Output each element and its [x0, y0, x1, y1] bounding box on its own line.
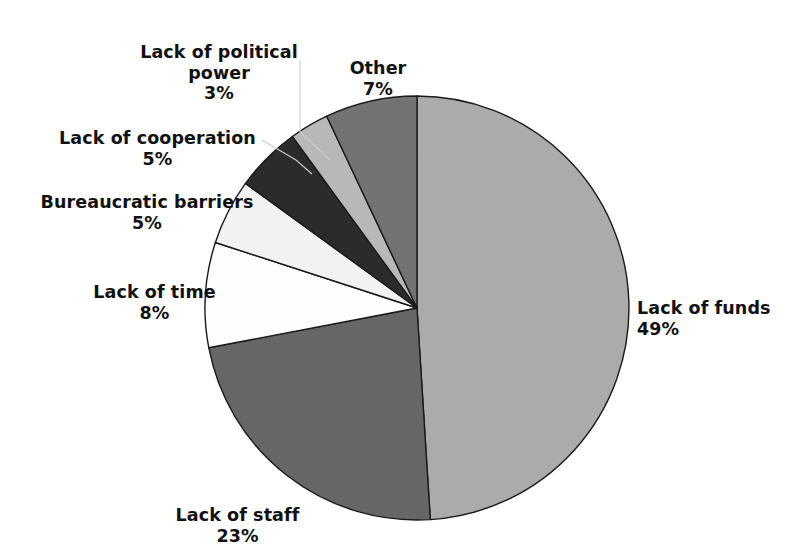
slice-label-funds: Lack of funds 49%	[637, 278, 793, 359]
slice-label-funds-name: Lack of funds	[637, 298, 771, 318]
slice-label-other-name: Other	[350, 58, 407, 78]
pie-slice-lack-of-funds	[417, 96, 629, 520]
slice-label-time-value: 8%	[72, 303, 237, 323]
slice-label-other: Other 7%	[318, 38, 438, 119]
slice-label-staff-value: 23%	[145, 526, 330, 546]
slice-label-political-power-name: Lack of political power	[140, 42, 298, 82]
slice-label-other-value: 7%	[318, 79, 438, 99]
slice-label-cooperation-value: 5%	[40, 149, 275, 169]
slice-label-staff: Lack of staff 23%	[145, 485, 330, 553]
slice-label-cooperation-name: Lack of cooperation	[59, 128, 256, 148]
slice-label-time-name: Lack of time	[93, 282, 215, 302]
slice-label-bureaucratic-barriers: Bureaucratic barriers 5%	[22, 172, 272, 253]
pie-chart: Lack of political power 3% Other 7% Lack…	[0, 0, 793, 553]
slice-label-political-power-value: 3%	[124, 83, 314, 103]
slice-label-funds-value: 49%	[637, 319, 793, 339]
slice-label-bureaucratic-barriers-value: 5%	[22, 213, 272, 233]
slice-label-bureaucratic-barriers-name: Bureaucratic barriers	[41, 192, 254, 212]
slice-label-staff-name: Lack of staff	[176, 505, 300, 525]
slice-label-time: Lack of time 8%	[72, 262, 237, 343]
